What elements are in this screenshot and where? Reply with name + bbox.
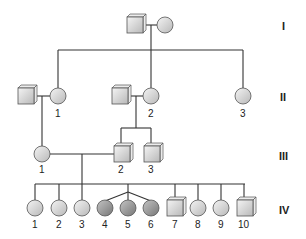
male-symbol[interactable] [114, 143, 133, 162]
individual-number: 1 [32, 219, 38, 230]
individual-number: 2 [148, 108, 154, 119]
female-symbol[interactable] [143, 88, 159, 104]
affected-female-symbol[interactable] [143, 200, 159, 216]
generation-label: II [280, 91, 286, 103]
generation-II: 1 2 3 II [18, 85, 286, 119]
individual-number: 8 [195, 219, 201, 230]
individual-number: 4 [102, 219, 108, 230]
individual-number: 3 [148, 164, 154, 175]
individual-number: 5 [125, 219, 131, 230]
female-symbol[interactable] [190, 200, 206, 216]
individual-number: 3 [79, 219, 85, 230]
individual-number: 6 [148, 219, 154, 230]
pedigree-diagram: I 1 2 3 II 1 2 3 III 1 2 3 [0, 0, 306, 239]
generation-III: 1 2 3 III [34, 143, 288, 175]
female-symbol[interactable] [235, 88, 251, 104]
pedigree-lines [34, 25, 245, 201]
individual-number: 2 [56, 219, 62, 230]
male-symbol[interactable] [112, 85, 131, 104]
affected-female-symbol[interactable] [120, 200, 136, 216]
generation-label: I [282, 20, 285, 32]
male-symbol[interactable] [237, 197, 256, 216]
individual-number: 3 [240, 108, 246, 119]
individual-number: 2 [118, 164, 124, 175]
generation-label: IV [279, 204, 290, 216]
individual-number: 10 [238, 219, 250, 230]
generation-IV: 1 2 3 4 5 6 7 8 9 10 IV [27, 197, 290, 230]
male-symbol[interactable] [167, 197, 186, 216]
individual-number: 7 [172, 219, 178, 230]
individual-number: 1 [55, 108, 61, 119]
female-symbol[interactable] [50, 88, 66, 104]
individual-number: 9 [218, 219, 224, 230]
individual-number: 1 [39, 164, 45, 175]
female-symbol[interactable] [74, 200, 90, 216]
male-symbol[interactable] [127, 14, 146, 33]
male-symbol[interactable] [18, 85, 37, 104]
female-symbol[interactable] [157, 17, 173, 33]
female-symbol[interactable] [27, 200, 43, 216]
female-symbol[interactable] [51, 200, 67, 216]
female-symbol[interactable] [213, 200, 229, 216]
affected-female-symbol[interactable] [97, 200, 113, 216]
female-symbol[interactable] [34, 146, 50, 162]
male-symbol[interactable] [144, 143, 163, 162]
generation-label: III [279, 150, 288, 162]
